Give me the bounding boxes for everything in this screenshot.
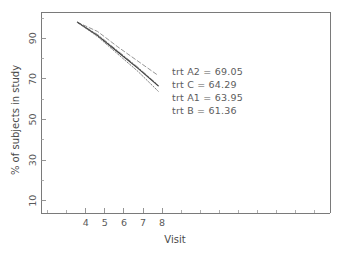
annotation-line-trt-a2: trt A2 = 69.05 <box>172 66 243 77</box>
annotation-line-trt-a1: trt A1 = 63.95 <box>172 92 243 103</box>
x-tick-label-7: 7 <box>140 217 146 228</box>
annotation-line-trt-b: trt B = 61.36 <box>172 105 237 116</box>
chart-figure: 90 70 50 30 10 % of subjects in study <box>0 0 340 260</box>
x-axis-title: Visit <box>164 234 185 245</box>
x-tick-label-8: 8 <box>159 217 165 228</box>
x-axis-tick-labels: 4 5 6 7 8 <box>83 217 165 228</box>
annotation-legend: trt A2 = 69.05 trt C = 64.29 trt A1 = 63… <box>172 66 243 116</box>
data-curves <box>77 22 158 91</box>
curve-trt-b <box>77 22 158 91</box>
y-axis-ticks <box>41 18 46 201</box>
annotation-line-trt-c: trt C = 64.29 <box>172 79 237 90</box>
y-tick-label-70: 70 <box>27 73 38 85</box>
y-axis-tick-labels: 90 70 50 30 10 <box>27 32 38 206</box>
y-tick-label-30: 30 <box>27 154 38 166</box>
retention-line-chart: 90 70 50 30 10 % of subjects in study <box>0 0 340 260</box>
y-tick-label-90: 90 <box>27 32 38 44</box>
y-tick-label-10: 10 <box>27 195 38 207</box>
y-axis-title: % of subjects in study <box>10 65 21 175</box>
x-tick-label-4: 4 <box>83 217 89 228</box>
x-tick-label-5: 5 <box>102 217 108 228</box>
x-tick-label-6: 6 <box>121 217 127 228</box>
x-axis-ticks <box>48 208 315 213</box>
y-tick-label-50: 50 <box>27 113 38 125</box>
